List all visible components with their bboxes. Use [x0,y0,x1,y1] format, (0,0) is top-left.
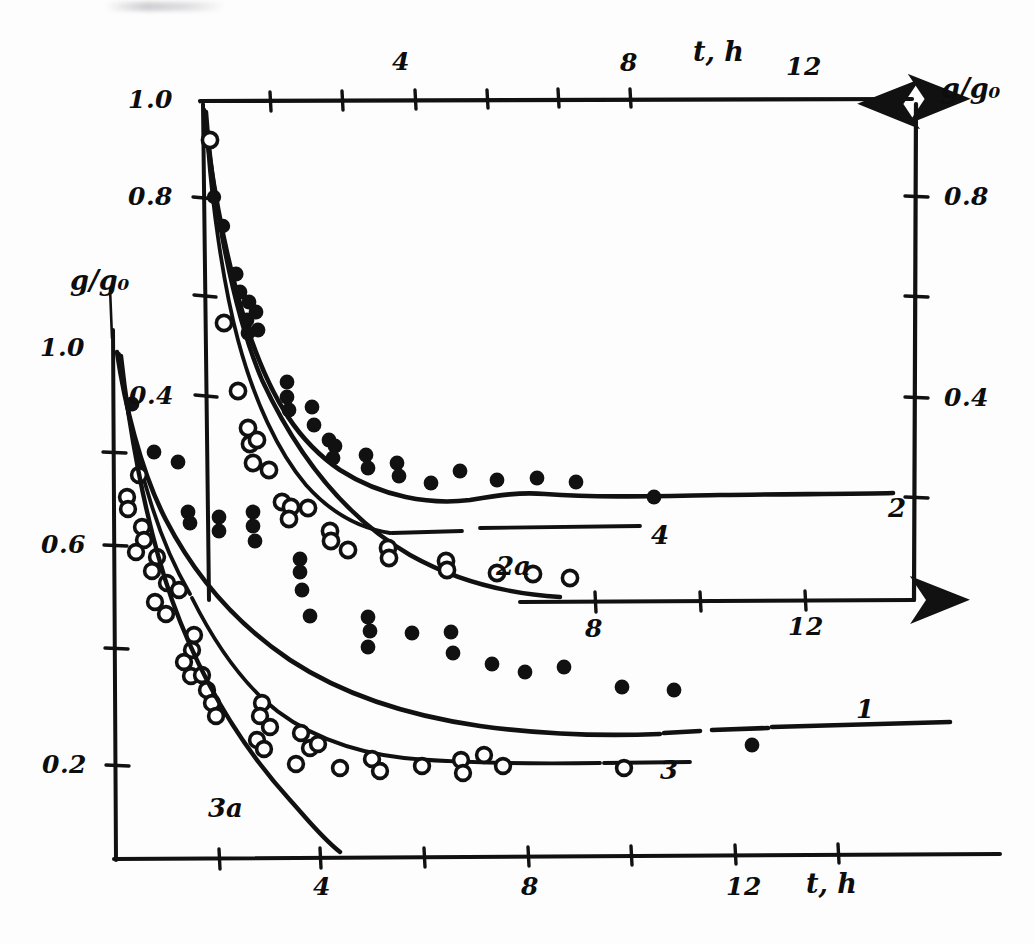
lower-ytick-0.6: 0.6 [41,530,86,559]
lower-xtick-4: 4 [313,872,331,901]
datapoint [733,753,748,768]
plot-svg [0,0,1034,944]
datapoint [278,547,293,562]
datapoint [382,745,397,760]
datapoint [518,663,533,678]
datapoint [315,734,330,749]
lower-ytick-1.0: 1.0 [40,333,85,362]
lower-xtick-8: 8 [521,872,539,901]
datapoint [227,618,242,633]
datapoint [657,697,672,712]
datapoint [202,578,217,593]
curve-label-4: 4 [651,520,669,550]
datapoint [246,283,261,298]
datapoint [521,684,536,699]
lower-xaxis-label: t, h [806,868,857,899]
datapoint [274,669,289,684]
datapoint [452,513,467,528]
upper-right-yaxis-label: g/g₀ [941,73,1000,104]
datapoint [394,504,409,519]
datapoint [885,743,900,758]
datapoint [183,575,198,590]
lower-yaxis-label: g/g₀ [70,265,129,296]
datapoint [202,558,217,573]
datapoint [533,524,548,539]
datapoint [345,396,360,411]
upper-ytick-0.4: 0.4 [129,381,174,410]
datapoint [129,442,144,457]
datapoint [312,371,327,386]
datapoint [597,468,612,483]
datapoint [262,417,277,432]
datapoint [701,469,716,484]
datapoint [186,559,201,574]
datapoint [334,605,349,620]
datapoint [157,488,172,503]
upper-ytick-1.0: 1.0 [128,85,173,114]
curve-label-3: 3 [660,755,678,785]
upper-xtick-top-4: 4 [392,47,410,76]
datapoint [371,495,386,510]
datapoint [363,752,378,767]
datapoint [224,283,239,298]
datapoint [224,221,239,236]
datapoint [727,716,742,731]
datapoint [267,397,282,412]
datapoint [271,694,286,709]
datapoint [460,450,475,465]
datapoint [202,136,217,151]
datapoint [211,193,226,208]
datapoint [272,321,287,336]
datapoint [704,530,719,545]
datapoint [417,650,432,665]
upper-ytick-0.8: 0.8 [128,182,173,211]
datapoint [505,470,520,485]
curve-label-2: 2 [888,493,906,523]
datapoint [569,695,584,710]
datapoint [363,728,378,743]
lower-ytick-0.2: 0.2 [42,750,87,779]
datapoint [373,445,388,460]
datapoint [347,649,362,664]
datapoint [546,459,561,474]
datapoint [135,501,150,516]
datapoint [160,532,175,547]
curve-label-3a: 3a [208,793,243,823]
upper-right-ytick-0.8: 0.8 [944,182,989,211]
lower-xtick-12: 12 [726,872,762,901]
datapoint [610,702,625,717]
datapoint [214,629,229,644]
curve-2-points [207,190,662,505]
datapoint [496,751,511,766]
datapoint [278,559,293,574]
upper-right-ytick-0.4: 0.4 [944,383,989,412]
datapoint [338,623,353,638]
datapoint [422,455,437,470]
datapoint [315,398,330,413]
datapoint [348,413,363,428]
datapoint [285,424,300,439]
curve-label-1: 1 [856,694,874,724]
datapoint [236,552,251,567]
datapoint [269,303,284,318]
datapoint [312,473,327,488]
datapoint [553,753,568,768]
datapoint [653,465,668,480]
datapoint [281,575,296,590]
datapoint [189,595,204,610]
datapoint [186,498,201,513]
datapoint [810,484,825,499]
datapoint [338,462,353,477]
upper-xtick-bottom-12: 12 [788,612,824,641]
figure-canvas: 1.0 0.8 0.4 4 8 12 t, h g/g₀ 0.8 0.4 8 1… [0,0,1034,944]
datapoint [236,632,251,647]
datapoint [258,323,273,338]
datapoint [334,593,349,608]
datapoint [436,751,451,766]
datapoint [602,527,617,542]
upper-xaxis-label: t, h [693,36,744,67]
upper-xtick-top-8: 8 [620,48,638,77]
datapoint [417,679,432,694]
upper-xtick-bottom-8: 8 [585,614,603,643]
datapoint [312,386,327,401]
